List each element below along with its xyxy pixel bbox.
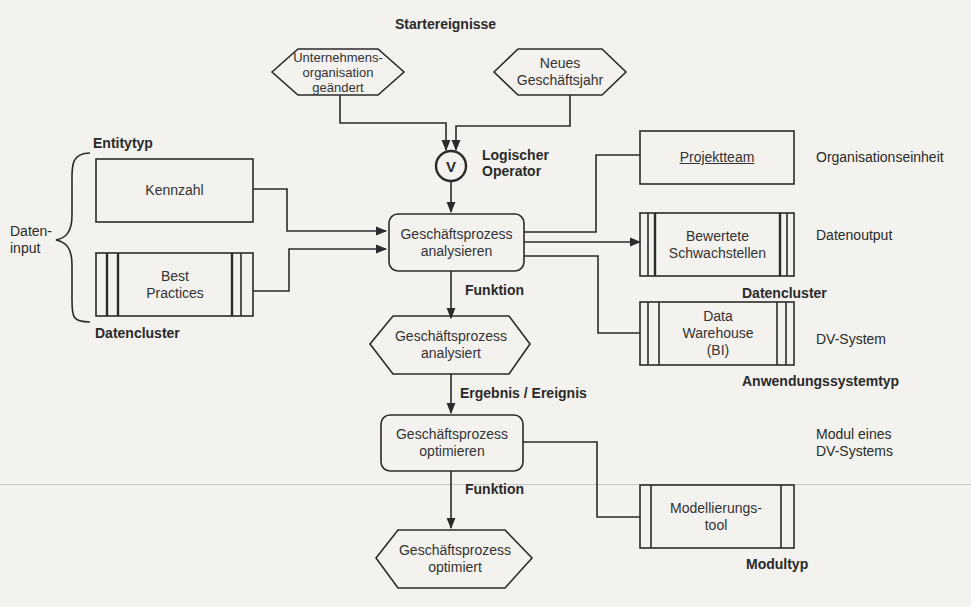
connector-kennzahl-to-function1 bbox=[253, 189, 386, 231]
operator-label-1: Logischer bbox=[482, 147, 549, 164]
modultyp-label: Modultyp bbox=[746, 556, 808, 573]
schwachstellen-type: Datenoutput bbox=[816, 227, 892, 244]
operator-symbol: V bbox=[446, 158, 456, 175]
start-events-label: Startereignisse bbox=[395, 16, 496, 33]
event-year-text: Neues Geschäftsjahr bbox=[500, 49, 620, 95]
function1-label: Funktion bbox=[465, 282, 524, 299]
connector-function1-to-projektteam bbox=[524, 155, 640, 232]
function1-text: Geschäftsprozess analysieren bbox=[389, 214, 524, 271]
anwendungssystemtyp-label: Anwendungssystemtyp bbox=[742, 373, 899, 390]
event-org-text: Unternehmens- organisation geändert bbox=[280, 49, 396, 95]
daten-input-label: Daten- input bbox=[10, 223, 52, 257]
function2-label: Funktion bbox=[465, 481, 524, 498]
event1-label: Ergebnis / Ereignis bbox=[460, 385, 587, 402]
connector-bestpractices-to-function1 bbox=[253, 249, 386, 291]
operator-label-2: Operator bbox=[482, 163, 541, 180]
connector-org-to-operator bbox=[340, 95, 446, 150]
schwachstellen-text: Bewertete Schwachstellen bbox=[655, 213, 780, 276]
function2-text: Geschäftsprozess optimieren bbox=[381, 415, 523, 471]
projektteam-type: Organisationseinheit bbox=[816, 149, 944, 166]
kennzahl-text: Kennzahl bbox=[96, 159, 253, 222]
daten-input-brace bbox=[56, 153, 90, 322]
projektteam-text: Projektteam bbox=[640, 131, 794, 184]
datencluster-left-label: Datencluster bbox=[95, 325, 180, 342]
datencluster-right-label: Datencluster bbox=[742, 285, 827, 302]
best-practices-text: Best Practices bbox=[118, 253, 232, 316]
connector-function1-to-datawarehouse bbox=[524, 256, 640, 333]
event2-text: Geschäftsprozess optimiert bbox=[385, 530, 525, 588]
modellierungstool-text: Modellierungs- tool bbox=[651, 485, 781, 548]
entitytyp-label: Entitytyp bbox=[93, 135, 153, 152]
datawarehouse-type: DV-System bbox=[816, 331, 886, 348]
event1-text: Geschäftsprozess analysiert bbox=[380, 316, 522, 374]
datawarehouse-text: Data Warehouse (BI) bbox=[659, 302, 777, 365]
connector-function2-to-modellierungstool bbox=[523, 442, 640, 517]
connector-year-to-operator bbox=[456, 95, 570, 150]
modul-description: Modul eines DV-Systems bbox=[816, 426, 893, 460]
